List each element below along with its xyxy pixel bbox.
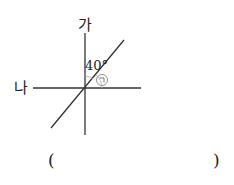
answer-open-paren: ( <box>48 150 55 170</box>
label-angle-40: 40° <box>85 59 108 72</box>
lines-diagram <box>0 0 234 185</box>
unknown-angle-circle-icon <box>97 75 108 86</box>
label-line-ga: 가 <box>78 18 92 33</box>
label-line-na: 나 <box>14 81 28 96</box>
answer-close-paren: ) <box>213 150 220 170</box>
geometry-figure: 가 나 40° <box>0 0 234 185</box>
diagonal-line <box>51 40 124 128</box>
